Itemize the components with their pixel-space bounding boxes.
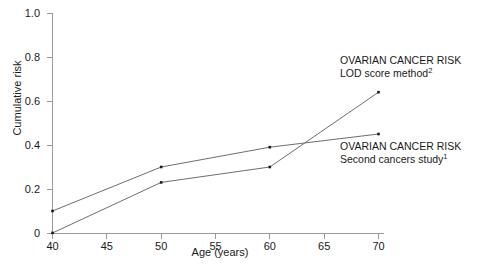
x-tick-label-45: 45 [92, 241, 122, 252]
series-line-lod-score-method [53, 92, 379, 233]
x-tick-label-70: 70 [364, 241, 394, 252]
data-point-second-50 [160, 166, 163, 169]
x-axis-title: Age (years) [160, 246, 280, 258]
annotation-second-line2-text: Second cancers study [340, 153, 443, 165]
chart-page: 1.0 0.8 0.6 0.4 0.2 0 40 45 50 55 60 65 … [0, 0, 486, 264]
series-markers-lod-score-method [51, 91, 380, 234]
annotation-lod-superscript: 2 [428, 66, 432, 75]
y-tick-label-1.0: 1.0 [10, 8, 40, 19]
annotation-lod-line2-text: LOD score method [340, 67, 428, 79]
data-point-lod-40 [51, 232, 54, 235]
x-tick-label-40: 40 [38, 241, 68, 252]
x-tick-label-65: 65 [309, 241, 339, 252]
annotation-lod-line1: OVARIAN CANCER RISK [340, 54, 461, 67]
data-point-lod-50 [160, 181, 163, 184]
annotation-second-superscript: 1 [443, 152, 447, 161]
annotation-second-line2: Second cancers study1 [340, 153, 461, 166]
data-point-lod-60 [269, 166, 272, 169]
annotation-lod-line2: LOD score method2 [340, 67, 461, 80]
data-point-lod-70 [377, 91, 380, 94]
annotation-lod-score-method: OVARIAN CANCER RISK LOD score method2 [340, 54, 461, 80]
series-line-second-cancers-study [53, 134, 379, 211]
data-point-second-70 [377, 133, 380, 136]
annotation-second-cancers-study: OVARIAN CANCER RISK Second cancers study… [340, 140, 461, 166]
y-tick-label-0.2: 0.2 [10, 184, 40, 195]
plot-area [0, 0, 486, 264]
data-point-second-60 [269, 146, 272, 149]
y-axis-title: Cumulative risk [11, 48, 23, 148]
series-markers-second-cancers-study [51, 133, 380, 213]
data-point-second-40 [51, 210, 54, 213]
y-tick-label-0: 0 [10, 228, 40, 239]
